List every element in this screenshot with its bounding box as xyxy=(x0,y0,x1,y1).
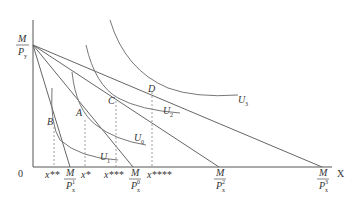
point-d-label: D xyxy=(147,83,156,94)
svg-text:3: 3 xyxy=(325,179,328,185)
tick-x-quad-star: x**** xyxy=(146,169,171,180)
svg-text:0: 0 xyxy=(137,179,140,185)
svg-text:M: M xyxy=(318,167,328,178)
svg-text:x: x xyxy=(222,187,225,193)
point-b-label: B xyxy=(47,116,53,127)
svg-text:M: M xyxy=(17,33,27,44)
svg-text:1: 1 xyxy=(107,158,110,164)
tick-x-star: x* xyxy=(80,169,90,180)
indifference-curve-diagram: B A C D U 1 U 0 U 2 U 3 M P y 0 X x** M … xyxy=(0,0,363,208)
y-intercept-label: M P y xyxy=(16,33,29,59)
svg-text:M: M xyxy=(215,167,225,178)
indifference-curve-u3 xyxy=(110,20,238,96)
svg-text:y: y xyxy=(24,53,27,59)
tick-m-px0: M P x 0 xyxy=(129,167,141,193)
svg-text:x: x xyxy=(72,187,75,193)
svg-text:M: M xyxy=(65,167,75,178)
svg-text:x: x xyxy=(325,187,328,193)
label-u2: U 2 xyxy=(163,105,173,118)
svg-text:1: 1 xyxy=(72,179,75,185)
tick-x-double-star: x** xyxy=(44,169,59,180)
point-a-label: A xyxy=(75,107,83,118)
indifference-curve-u2 xyxy=(86,45,180,113)
tick-m-px1: M P x 1 xyxy=(64,167,76,193)
point-c-label: C xyxy=(108,95,115,106)
svg-text:x: x xyxy=(137,187,140,193)
svg-text:0: 0 xyxy=(141,139,144,145)
label-u3: U 3 xyxy=(238,94,248,107)
origin-label: 0 xyxy=(18,168,23,179)
label-u1: U 1 xyxy=(100,151,110,164)
x-axis-label: X xyxy=(337,168,345,179)
svg-text:3: 3 xyxy=(245,101,248,107)
tick-m-px3: M P x 3 xyxy=(317,167,329,193)
tick-x-triple-star: x*** xyxy=(103,169,123,180)
budget-line-3 xyxy=(33,45,322,167)
svg-text:2: 2 xyxy=(170,112,173,118)
svg-text:2: 2 xyxy=(222,179,225,185)
tick-m-px2: M P x 2 xyxy=(214,167,226,193)
svg-text:M: M xyxy=(130,167,140,178)
budget-line-2 xyxy=(33,45,219,167)
budget-line-0 xyxy=(33,45,133,167)
